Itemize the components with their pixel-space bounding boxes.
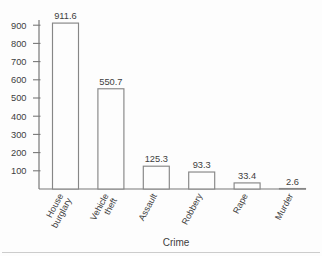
bar-robbery xyxy=(189,172,215,189)
bar-house-burglary xyxy=(53,23,79,189)
y-tick-label: 500 xyxy=(11,93,27,103)
y-tick-label: 200 xyxy=(11,148,27,158)
bar-value-label: 33.4 xyxy=(238,171,256,181)
x-category-label: Robbery xyxy=(180,191,205,226)
bar-rape xyxy=(234,183,260,189)
y-tick-label: 300 xyxy=(11,130,27,140)
x-category-label: Houseburglary xyxy=(41,191,74,229)
y-tick-label: 800 xyxy=(11,39,27,49)
x-category-label: Rape xyxy=(231,192,250,216)
bar-value-label: 93.3 xyxy=(193,160,211,170)
x-category-label: Vehicletheft xyxy=(88,191,119,226)
y-tick-label: 100 xyxy=(11,166,27,176)
y-tick-label: 900 xyxy=(11,21,27,31)
x-axis-title: Crime xyxy=(163,237,190,248)
y-tick-label: 700 xyxy=(11,57,27,67)
crime-rate-bar-chart: 100200300400500600700800900911.6Housebur… xyxy=(0,0,322,256)
y-tick-label: 600 xyxy=(11,75,27,85)
x-category-label: Assault xyxy=(136,191,159,222)
bar-value-label: 125.3 xyxy=(145,154,168,164)
bar-assault xyxy=(143,166,169,189)
bar-chart-canvas: 100200300400500600700800900911.6Housebur… xyxy=(0,0,322,256)
y-tick-label: 400 xyxy=(11,112,27,122)
bar-value-label: 550.7 xyxy=(99,77,122,87)
bar-vehicle-theft xyxy=(98,89,124,189)
bar-value-label: 911.6 xyxy=(54,11,77,21)
bar-value-label: 2.6 xyxy=(286,177,299,187)
x-category-label: Murder xyxy=(273,192,295,222)
